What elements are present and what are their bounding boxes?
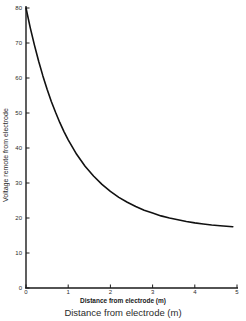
x-tick-label: 5 bbox=[230, 289, 244, 295]
x-tick-label: 1 bbox=[61, 289, 75, 295]
y-tick-label: 60 bbox=[8, 75, 22, 81]
plot-area bbox=[0, 0, 246, 321]
y-tick-label: 10 bbox=[8, 250, 22, 256]
chart-figure: Voltage remote from electrode 0102030405… bbox=[0, 0, 246, 321]
x-tick-label: 4 bbox=[188, 289, 202, 295]
x-tick-label: 0 bbox=[19, 289, 33, 295]
y-tick-label: 50 bbox=[8, 110, 22, 116]
y-tick-label: 20 bbox=[8, 215, 22, 221]
x-tick-label: 2 bbox=[103, 289, 117, 295]
x-axis-title-outer: Distance from electrode (m) bbox=[0, 307, 246, 318]
y-tick-label: 30 bbox=[8, 180, 22, 186]
y-tick-label: 70 bbox=[8, 40, 22, 46]
x-tick-label: 3 bbox=[146, 289, 160, 295]
y-tick-label: 80 bbox=[8, 5, 22, 11]
x-axis-title-inner: Distance from electrode (m) bbox=[0, 297, 246, 304]
y-axis-title: Voltage remote from electrode bbox=[2, 60, 16, 250]
y-tick-label: 40 bbox=[8, 145, 22, 151]
data-series-line bbox=[26, 8, 233, 227]
